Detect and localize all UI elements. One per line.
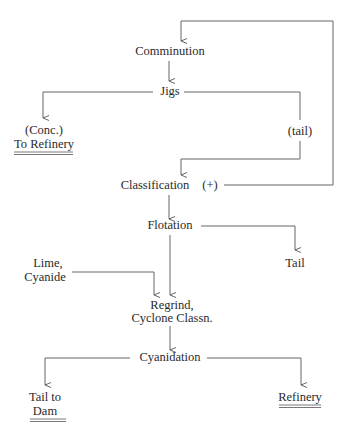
node-regrind: Regrind,	[150, 298, 193, 312]
label-classification-plus: (+)	[202, 178, 217, 192]
node-cyanide: Cyanide	[24, 270, 66, 284]
line-jigs-to-tail	[184, 92, 300, 120]
node-cyanidation: Cyanidation	[139, 350, 201, 364]
node-jigs: Jigs	[160, 84, 180, 98]
arrow-tail-to-classification	[181, 141, 300, 175]
node-cyclone-classn: Cyclone Classn.	[131, 311, 212, 325]
node-comminution: Comminution	[135, 44, 205, 58]
arrow-lime-to-regrind	[72, 272, 154, 295]
arrow-cyanidation-to-dam	[45, 358, 130, 385]
node-flotation: Flotation	[147, 218, 193, 232]
arrow-jigs-to-conc	[43, 92, 153, 118]
node-refinery: Refinery	[278, 390, 322, 404]
process-flowsheet: Comminution Jigs (Conc.) To Refinery (ta…	[0, 0, 349, 433]
arrow-flotation-to-tail	[201, 226, 295, 250]
node-conc-label: (Conc.)	[25, 123, 63, 137]
arrow-cyanidation-to-refinery	[207, 358, 301, 385]
node-lime: Lime,	[33, 256, 63, 270]
node-classification: Classification	[121, 178, 190, 192]
label-jigs-tail: (tail)	[288, 124, 312, 138]
node-tail-to: Tail to	[29, 390, 61, 404]
node-dam: Dam	[33, 404, 58, 418]
node-flotation-tail: Tail	[285, 256, 305, 270]
node-to-refinery: To Refinery	[14, 137, 75, 151]
